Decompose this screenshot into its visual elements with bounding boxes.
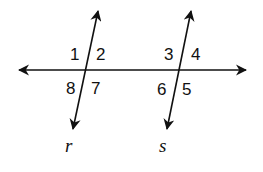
angle-5-label: 5 [182, 80, 191, 99]
diagram-svg: 1 2 8 7 3 4 6 5 r s [0, 0, 263, 172]
line-r-label: r [65, 135, 73, 156]
angle-6-label: 6 [157, 80, 166, 99]
angle-7-label: 7 [91, 79, 100, 98]
angle-3-label: 3 [164, 45, 173, 64]
diagram-canvas: 1 2 8 7 3 4 6 5 r s [0, 0, 263, 172]
line-s-label: s [159, 135, 166, 156]
angle-2-label: 2 [96, 45, 105, 64]
angle-1-label: 1 [70, 45, 79, 64]
angle-4-label: 4 [191, 45, 200, 64]
angle-8-label: 8 [66, 79, 75, 98]
